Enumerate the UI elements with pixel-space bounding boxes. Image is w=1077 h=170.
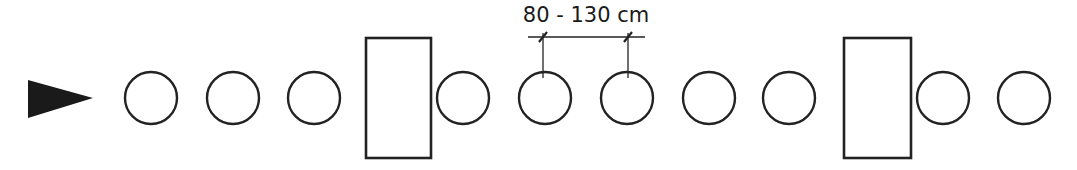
- circle-element-3: [288, 72, 340, 124]
- rectangle-element-1: [366, 38, 431, 158]
- diagram-canvas: 80 - 130 cm: [0, 0, 1077, 170]
- spacing-diagram: 80 - 130 cm: [0, 0, 1077, 170]
- circle-element-2: [207, 72, 259, 124]
- dimension-annotation: 80 - 130 cm: [523, 3, 649, 78]
- direction-arrow-icon: [28, 80, 93, 118]
- rectangle-element-2: [844, 38, 911, 158]
- rectangular-elements: [366, 38, 911, 158]
- circle-element-4: [437, 72, 489, 124]
- circle-element-5: [519, 72, 571, 124]
- circle-element-9: [917, 72, 969, 124]
- circle-element-6: [601, 72, 653, 124]
- arrow-triangle: [28, 80, 93, 118]
- circle-element-8: [763, 72, 815, 124]
- circle-element-10: [998, 72, 1050, 124]
- circle-element-1: [125, 72, 177, 124]
- circle-element-7: [683, 72, 735, 124]
- dimension-label: 80 - 130 cm: [523, 3, 649, 27]
